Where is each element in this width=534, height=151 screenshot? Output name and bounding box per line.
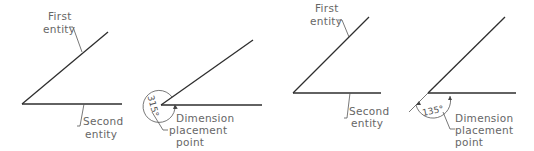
placement-label-3: point xyxy=(176,136,204,148)
second-entity-label-1: Second xyxy=(83,115,123,127)
first-entity-label-1: First xyxy=(315,2,339,14)
placement-leader xyxy=(443,112,455,129)
first-entity-label-2: entity xyxy=(310,15,342,27)
panel-4: 135° Dimension placement point xyxy=(409,17,516,148)
arrowhead-right xyxy=(448,96,452,100)
first-entity-line xyxy=(428,17,505,93)
first-entity-label-2: entity xyxy=(43,23,75,35)
panel-3: First entity Second entity xyxy=(293,2,389,129)
second-entity-label-1: Second xyxy=(349,105,389,117)
first-entity-line xyxy=(293,17,369,93)
first-entity-line xyxy=(22,32,108,104)
panel-2: 315° Dimension placement point xyxy=(143,40,262,148)
angular-dimension-diagram: First entity Second entity 315° Dimensio… xyxy=(0,0,534,151)
placement-label-3: point xyxy=(455,136,483,148)
placement-label-2: placement xyxy=(169,124,227,136)
first-entity-line xyxy=(161,40,253,105)
placement-label-1: Dimension xyxy=(455,112,514,124)
second-entity-label-2: entity xyxy=(351,117,383,129)
second-entity-label-2: entity xyxy=(85,128,117,140)
panel-1: First entity Second entity xyxy=(22,10,123,140)
first-entity-label-1: First xyxy=(48,10,72,22)
arrowhead-left xyxy=(416,101,421,105)
placement-label-1: Dimension xyxy=(176,112,235,124)
placement-label-2: placement xyxy=(455,124,513,136)
